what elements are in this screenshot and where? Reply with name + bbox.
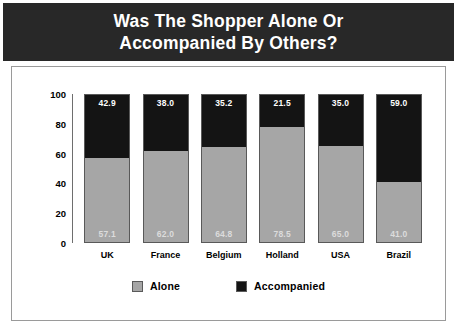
bar-segment-alone: 41.0 [377,182,421,242]
y-axis-tick-label: 0 [32,238,66,249]
x-axis-category-label: USA [318,250,364,260]
bar-segment-accompanied: 59.0 [377,95,421,182]
bar-value-label: 64.8 [202,229,246,239]
page-title: Was The Shopper Alone Or Accompanied By … [113,10,343,55]
stacked-bar: 35.065.0 [318,94,364,243]
bar-segment-accompanied: 42.9 [85,95,129,158]
bar-value-label: 78.5 [260,229,304,239]
legend-label: Alone [150,280,180,292]
y-axis-line [72,94,73,243]
y-axis-tick-label: 80 [32,118,66,129]
chart-figure: Was The Shopper Alone Or Accompanied By … [0,0,457,334]
legend-label: Accompanied [254,280,325,292]
legend-swatch-icon [236,281,247,292]
bar-segment-accompanied: 35.2 [202,95,246,147]
y-axis-tick-label: 40 [32,178,66,189]
x-axis-category-label: Holland [259,250,305,260]
x-axis-category-label: Belgium [201,250,247,260]
bar-value-label: 42.9 [85,98,129,108]
bars-area: 42.957.138.062.035.264.821.578.535.065.0… [78,94,428,243]
y-axis-tick-label: 60 [32,148,66,159]
x-axis-category-label: France [143,250,189,260]
chart-title-band: Was The Shopper Alone Or Accompanied By … [3,3,454,61]
bar-segment-accompanied: 38.0 [144,95,188,151]
bar-value-label: 35.2 [202,98,246,108]
bar-column: 35.264.8 [201,94,247,243]
stacked-bar: 35.264.8 [201,94,247,243]
bar-value-label: 65.0 [319,229,363,239]
x-axis-category-labels: UKFranceBelgiumHollandUSABrazil [78,250,428,264]
bar-segment-accompanied: 35.0 [319,95,363,146]
legend-swatch-icon [132,281,143,292]
bar-value-label: 62.0 [144,229,188,239]
y-axis-tick-label: 20 [32,208,66,219]
bar-value-label: 21.5 [260,98,304,108]
bar-value-label: 59.0 [377,98,421,108]
stacked-bar: 59.041.0 [376,94,422,243]
y-axis-tick-label: 100 [32,89,66,100]
legend-item: Alone [132,280,180,292]
chart-legend: AloneAccompanied [12,280,445,292]
bar-segment-alone: 65.0 [319,146,363,242]
bar-column: 35.065.0 [318,94,364,243]
bar-value-label: 38.0 [144,98,188,108]
bar-column: 59.041.0 [376,94,422,243]
plot-panel: 100806040200 42.957.138.062.035.264.821.… [11,66,446,321]
bar-segment-alone: 62.0 [144,151,188,242]
bar-column: 38.062.0 [143,94,189,243]
bar-value-label: 41.0 [377,229,421,239]
bar-value-label: 57.1 [85,229,129,239]
stacked-bar: 42.957.1 [84,94,130,243]
x-axis-category-label: UK [84,250,130,260]
bar-column: 21.578.5 [259,94,305,243]
bar-column: 42.957.1 [84,94,130,243]
stacked-bar: 38.062.0 [143,94,189,243]
bar-segment-accompanied: 21.5 [260,95,304,127]
bar-value-label: 35.0 [319,98,363,108]
legend-item: Accompanied [236,280,325,292]
bar-segment-alone: 57.1 [85,158,129,242]
x-axis-category-label: Brazil [376,250,422,260]
bar-segment-alone: 64.8 [202,147,246,242]
stacked-bar: 21.578.5 [259,94,305,243]
bar-segment-alone: 78.5 [260,127,304,242]
